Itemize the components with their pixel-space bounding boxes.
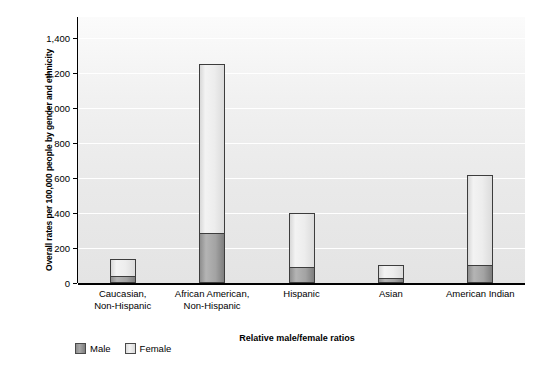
gridline xyxy=(78,178,525,179)
x-axis-category-label: Hispanic xyxy=(283,288,319,300)
bar-segment-male xyxy=(289,267,315,283)
gridline xyxy=(78,73,525,74)
y-axis-tick-label: 1,000 xyxy=(6,103,70,114)
x-axis-category-label: African American,Non-Hispanic xyxy=(175,288,249,311)
y-axis-tick-mark xyxy=(73,283,77,284)
legend-swatch-female-icon xyxy=(125,343,136,354)
x-axis-category-label: American Indian xyxy=(446,288,515,300)
bar-3 xyxy=(289,213,315,283)
gridline xyxy=(78,143,525,144)
y-axis-tick-label: 800 xyxy=(6,138,70,149)
legend-label-female: Female xyxy=(140,343,172,354)
chart-legend: Male Female xyxy=(75,343,171,354)
bar-1 xyxy=(110,259,136,284)
bar-segment-male xyxy=(467,265,493,283)
legend-item-male: Male xyxy=(75,343,111,354)
y-axis-tick-labels: 02004006008001,0001,2001,400 xyxy=(0,0,70,365)
x-axis-title: Relative male/female ratios xyxy=(0,333,536,343)
x-axis-category-label: Caucasian,Non-Hispanic xyxy=(94,288,151,311)
y-axis-tick-label: 1,400 xyxy=(6,33,70,44)
stacked-bar-chart: Overall rates per 100,000 people by gend… xyxy=(0,0,536,365)
gridline xyxy=(78,38,525,39)
legend-label-male: Male xyxy=(90,343,111,354)
bar-4 xyxy=(378,265,404,283)
legend-swatch-male-icon xyxy=(75,343,86,354)
y-axis-tick-label: 0 xyxy=(6,278,70,289)
bar-segment-male xyxy=(110,276,136,283)
y-axis-line xyxy=(77,17,78,283)
x-axis-line xyxy=(78,283,525,285)
y-axis-tick-label: 200 xyxy=(6,243,70,254)
gridline xyxy=(78,108,525,109)
y-axis-tick-label: 1,200 xyxy=(6,68,70,79)
plot-area xyxy=(78,17,525,283)
legend-item-female: Female xyxy=(125,343,172,354)
bar-segment-male xyxy=(199,233,225,283)
x-axis-category-label: Asian xyxy=(379,288,403,300)
bar-5 xyxy=(467,175,493,284)
y-axis-tick-label: 400 xyxy=(6,208,70,219)
y-axis-tick-label: 600 xyxy=(6,173,70,184)
bar-2 xyxy=(199,64,225,283)
